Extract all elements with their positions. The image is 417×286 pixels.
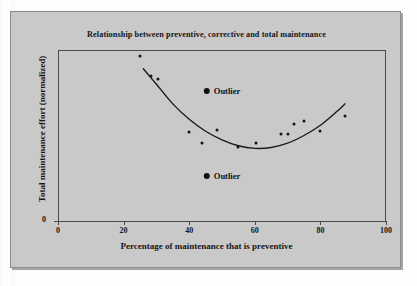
x-axis-tick-label: 20 <box>120 226 128 235</box>
data-point <box>280 132 283 135</box>
x-axis-tick-label: 60 <box>251 226 259 235</box>
data-point <box>293 123 296 126</box>
x-axis-tick <box>320 221 321 225</box>
y-axis-zero-label: 0 <box>42 215 46 224</box>
outlier-marker-icon <box>204 173 210 179</box>
y-axis-title: Total maintenance effort (normalized) <box>37 49 47 209</box>
x-axis-tick <box>124 221 125 225</box>
data-point <box>157 78 160 81</box>
data-point <box>286 132 289 135</box>
x-axis-title: Percentage of maintenance that is preven… <box>11 241 402 251</box>
x-axis-tick-label: 100 <box>380 226 392 235</box>
x-axis-tick-label: 40 <box>185 226 193 235</box>
data-point <box>150 74 153 77</box>
outlier-annotation: Outlier <box>204 171 240 181</box>
x-axis-tick-label: 80 <box>316 226 324 235</box>
outlier-label: Outlier <box>214 171 240 181</box>
data-point <box>255 142 258 145</box>
plot-area: OutlierOutlier <box>58 50 386 221</box>
x-axis-tick-label: 0 <box>56 226 60 235</box>
data-point <box>237 146 240 149</box>
data-point <box>139 54 142 57</box>
screenshot-root: Relationship between preventive, correct… <box>0 0 417 286</box>
chart-figure-panel: Relationship between preventive, correct… <box>10 11 401 268</box>
outlier-marker-icon <box>204 88 210 94</box>
chart-title: Relationship between preventive, correct… <box>11 30 402 39</box>
data-point <box>303 119 306 122</box>
outlier-label: Outlier <box>214 86 240 96</box>
x-axis-tick <box>189 221 190 225</box>
data-point <box>201 142 204 145</box>
data-point <box>344 114 347 117</box>
data-point <box>319 130 322 133</box>
data-point <box>188 131 191 134</box>
trend-curve <box>58 50 386 221</box>
x-axis-line <box>58 221 387 222</box>
outlier-annotation: Outlier <box>204 86 240 96</box>
x-axis-tick <box>255 221 256 225</box>
x-axis-tick <box>58 221 59 225</box>
x-axis-tick <box>386 221 387 225</box>
data-point <box>216 128 219 131</box>
